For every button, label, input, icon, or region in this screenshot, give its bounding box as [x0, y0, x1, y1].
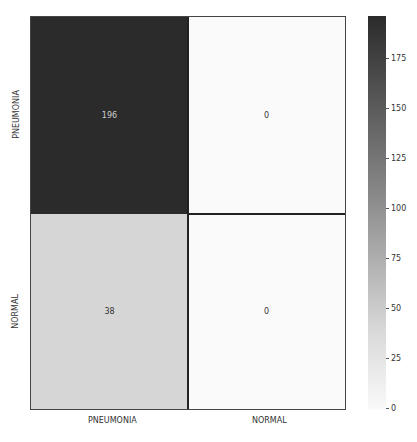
colorbar	[368, 16, 386, 410]
colorbar-tick: 0	[386, 404, 396, 413]
cell-value: 0	[264, 111, 269, 120]
colorbar-tick: 150	[386, 104, 406, 113]
cell-pneumonia-pneumonia: 196	[31, 17, 188, 214]
y-tick-label-pneumonia: PNEUMONIA	[12, 90, 21, 139]
cell-normal-normal: 0	[188, 214, 345, 409]
colorbar-tick: 75	[386, 254, 401, 263]
colorbar-tick: 175	[386, 54, 406, 63]
colorbar-tick: 25	[386, 354, 401, 363]
x-tick-label-normal: NORMAL	[252, 416, 287, 425]
cell-pneumonia-normal: 0	[188, 17, 345, 214]
confusion-matrix-heatmap: 196 0 38 0	[30, 16, 346, 410]
grid-divider-horizontal	[188, 213, 345, 215]
cell-value: 196	[102, 111, 117, 120]
y-tick-label-normal: NORMAL	[11, 294, 20, 329]
cell-value: 0	[264, 307, 269, 316]
colorbar-tick: 50	[386, 304, 401, 313]
x-tick-label-pneumonia: PNEUMONIA	[88, 416, 137, 425]
colorbar-tick: 100	[386, 204, 406, 213]
colorbar-tick: 125	[386, 154, 406, 163]
cell-value: 38	[104, 307, 114, 316]
cell-normal-pneumonia: 38	[31, 214, 188, 409]
